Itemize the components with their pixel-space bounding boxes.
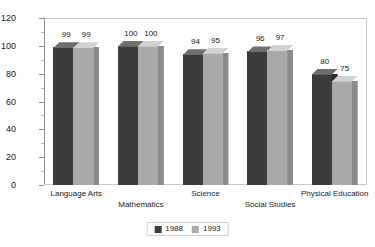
bars-layer: 9999100100949596978075 (44, 18, 367, 185)
y-tick-label: 120 (1, 14, 16, 23)
y-tick-label: 40 (6, 125, 16, 134)
bar-1988-4[interactable] (312, 74, 332, 185)
x-axis-label-1: Mathematics (118, 200, 163, 209)
y-tick-label: 60 (6, 97, 16, 106)
bar-value-label: 80 (315, 58, 335, 66)
y-tick-label: 80 (6, 69, 16, 78)
x-axis-label-2: Science (191, 189, 219, 198)
x-axis-label-3: Social Studies (245, 200, 296, 209)
bar-side-face (352, 81, 358, 185)
legend-label: 1988 (165, 225, 183, 233)
bar-group: 8075 (44, 18, 367, 185)
bar-front-face (332, 81, 352, 185)
bar-1993-4[interactable] (332, 81, 352, 185)
bar-front-face (312, 74, 332, 185)
legend-entry-1988[interactable]: 1988 (154, 225, 183, 233)
x-axis-label-0: Language Arts (50, 189, 102, 198)
chart-legend: 19881993 (146, 222, 229, 236)
legend-swatch-icon (154, 226, 161, 233)
x-axis-label-4: Physical Education (301, 189, 369, 198)
bar-value-label: 75 (335, 65, 355, 73)
legend-label: 1993 (203, 225, 221, 233)
x-axis-labels: Language ArtsMathematicsScienceSocial St… (0, 186, 375, 214)
legend-entry-1993[interactable]: 1993 (192, 225, 221, 233)
y-tick-label: 20 (6, 153, 16, 162)
chart-title (0, 0, 375, 1)
legend-swatch-icon (192, 226, 199, 233)
y-tick-label: 100 (1, 41, 16, 50)
